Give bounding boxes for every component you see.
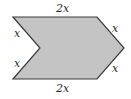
- chevron-diagram: 2x x x x x 2x: [0, 0, 131, 99]
- label-top: 2x: [55, 2, 70, 15]
- label-left-lower: x: [14, 57, 21, 70]
- label-bottom: 2x: [55, 82, 70, 95]
- chevron-figure: 2x x x x x 2x: [0, 0, 131, 99]
- label-right-lower: x: [112, 62, 119, 75]
- label-right-upper: x: [112, 22, 119, 35]
- chevron-shape: [13, 17, 124, 79]
- label-left-upper: x: [14, 27, 21, 40]
